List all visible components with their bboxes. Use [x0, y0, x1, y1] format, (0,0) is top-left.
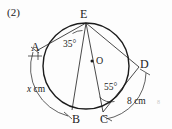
problem-number: (2)	[7, 7, 20, 18]
chord-EB	[72, 23, 86, 110]
chord-EC	[86, 23, 103, 112]
length-unit-x: cm	[34, 84, 46, 94]
angle-label-35: 35°	[63, 40, 76, 50]
center-label-O: O	[96, 56, 103, 66]
point-label-C: C	[100, 113, 108, 125]
point-label-A: A	[31, 41, 40, 53]
chord-EA	[38, 23, 86, 50]
point-label-B: B	[72, 113, 80, 125]
scan-artifact-mark: 8	[157, 99, 160, 105]
point-label-E: E	[80, 8, 87, 20]
length-label-x-cm: x cm	[27, 85, 45, 95]
angle-arc-at-E	[73, 30, 83, 33]
length-label-8-cm: 8 cm	[127, 97, 146, 107]
center-point-O	[91, 60, 94, 63]
length-unit-8: cm	[134, 96, 146, 106]
point-label-D: D	[140, 58, 149, 70]
angle-label-55: 55°	[104, 83, 117, 93]
chord-ED	[86, 23, 139, 67]
geometry-figure-container: (2) E A B C D O 35° 55° x cm 8 cm 8	[0, 0, 172, 129]
